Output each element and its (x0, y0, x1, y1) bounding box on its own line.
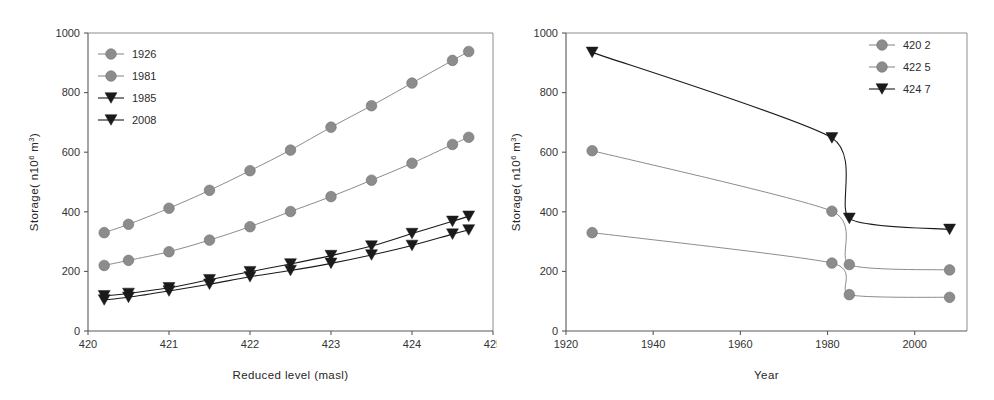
data-point-2008 (204, 279, 216, 290)
data-point-1981 (245, 221, 256, 232)
y-axis-title-unit: m (28, 142, 40, 156)
x-tick-label: 2000 (902, 338, 926, 350)
y-axis-title-unit: m (510, 142, 522, 156)
data-point-2008 (366, 250, 378, 261)
y-tick-label: 600 (540, 146, 558, 158)
data-point-420-2 (827, 258, 838, 269)
data-point-1926 (99, 227, 110, 238)
data-point-424-7 (843, 213, 855, 224)
legend-label: 1985 (132, 92, 156, 104)
series-line-422-5 (592, 151, 949, 270)
data-point-424-7 (586, 47, 598, 58)
data-point-1981 (285, 206, 296, 217)
data-point-1926 (245, 165, 256, 176)
left-chart-svg: 02004006008001000420421422423424425Reduc… (0, 0, 497, 400)
y-axis-ticks: 02004006008001000 (534, 27, 566, 337)
series-group (586, 47, 955, 303)
legend-label: 422 5 (903, 61, 931, 73)
series-line-420-2 (592, 233, 949, 298)
legend-label: 2008 (132, 114, 156, 126)
data-point-1926 (407, 78, 418, 89)
legend-marker (877, 62, 888, 73)
x-tick-label: 424 (403, 338, 421, 350)
legend: 420 2422 5424 7 (869, 39, 931, 95)
data-point-1926 (204, 185, 215, 196)
y-tick-label: 200 (62, 265, 80, 277)
data-point-1926 (326, 122, 337, 133)
legend-label: 1926 (132, 48, 156, 60)
y-axis-title-text: Storage( n106 m3) (26, 133, 40, 231)
legend-item-1985[interactable]: 1985 (98, 92, 156, 104)
data-point-1926 (463, 46, 474, 57)
y-tick-label: 200 (540, 265, 558, 277)
data-point-422-5 (844, 259, 855, 270)
x-tick-label: 421 (160, 338, 178, 350)
x-axis-title: Year (754, 369, 779, 381)
data-point-420-2 (587, 227, 598, 238)
legend-item-422-5[interactable]: 422 5 (869, 61, 931, 73)
y-tick-label: 0 (552, 325, 558, 337)
x-tick-label: 1920 (554, 338, 578, 350)
legend-item-2008[interactable]: 2008 (98, 114, 156, 126)
figure-container: 02004006008001000420421422423424425Reduc… (0, 0, 994, 400)
legend-marker (106, 71, 117, 82)
y-axis-title: Storage( n106 m3) (26, 133, 40, 231)
legend-item-420-2[interactable]: 420 2 (869, 39, 931, 51)
x-tick-label: 422 (241, 338, 259, 350)
data-point-2008 (406, 240, 418, 251)
data-point-422-5 (944, 265, 955, 276)
legend: 1926198119852008 (98, 48, 156, 126)
y-tick-label: 400 (62, 206, 80, 218)
data-point-420-2 (944, 292, 955, 303)
data-point-420-2 (844, 289, 855, 300)
left-chart-panel: 02004006008001000420421422423424425Reduc… (0, 0, 497, 400)
x-axis-ticks: 420421422423424425 (79, 331, 497, 350)
data-point-1985 (463, 211, 475, 222)
x-tick-label: 423 (322, 338, 340, 350)
data-point-1985 (406, 228, 418, 239)
legend-item-1926[interactable]: 1926 (98, 48, 156, 60)
data-point-1981 (204, 235, 215, 246)
legend-label: 424 7 (903, 83, 931, 95)
axes (566, 33, 967, 331)
data-point-1926 (447, 55, 458, 66)
y-tick-label: 0 (74, 325, 80, 337)
x-tick-label: 420 (79, 338, 97, 350)
series-line-424-7 (592, 52, 949, 229)
data-point-1981 (326, 191, 337, 202)
data-point-1926 (164, 203, 175, 214)
plot-frame-outline (566, 33, 967, 331)
data-point-1981 (366, 175, 377, 186)
y-tick-label: 600 (62, 146, 80, 158)
x-tick-label: 1960 (728, 338, 752, 350)
right-chart-svg: 0200400600800100019201940196019802000Yea… (497, 0, 994, 400)
legend-label: 420 2 (903, 39, 931, 51)
plot-frame (566, 33, 967, 331)
data-point-1981 (463, 132, 474, 143)
data-point-2008 (463, 225, 475, 236)
y-tick-label: 800 (540, 86, 558, 98)
data-point-1981 (164, 246, 175, 257)
series-group (98, 46, 474, 305)
x-axis-title: Reduced level (masl) (232, 369, 348, 381)
data-point-1926 (366, 100, 377, 111)
data-point-1981 (447, 139, 458, 150)
legend-item-424-7[interactable]: 424 7 (869, 83, 931, 95)
data-point-2008 (325, 258, 337, 269)
y-tick-label: 1000 (56, 27, 80, 39)
legend-marker (877, 40, 888, 51)
y-axis-title-close: ) (28, 133, 40, 137)
data-point-1981 (407, 158, 418, 169)
data-point-2008 (447, 229, 459, 240)
data-point-422-5 (827, 206, 838, 217)
y-tick-label: 800 (62, 86, 80, 98)
x-axis-ticks: 19201940196019802000 (554, 331, 927, 350)
legend-marker (106, 49, 117, 60)
data-point-1981 (99, 260, 110, 271)
legend-item-1981[interactable]: 1981 (98, 70, 156, 82)
x-tick-label: 1980 (815, 338, 839, 350)
y-axis-title-text: Storage( n106 m3) (508, 133, 522, 231)
data-point-1926 (285, 145, 296, 156)
data-point-422-5 (587, 145, 598, 156)
data-point-2008 (244, 271, 256, 282)
